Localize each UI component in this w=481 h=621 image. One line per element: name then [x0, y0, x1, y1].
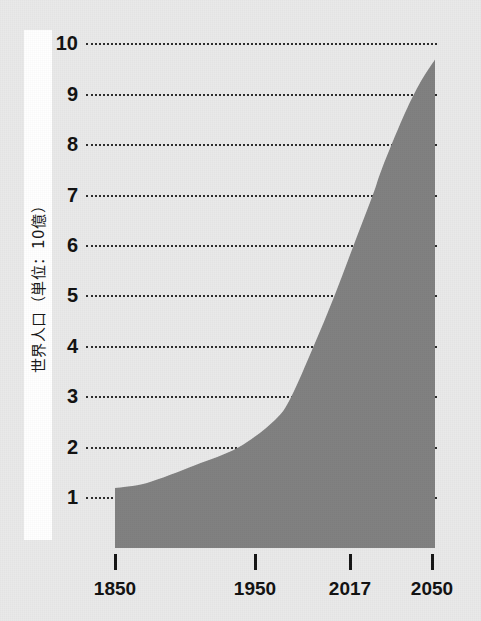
area-series-svg	[0, 0, 481, 621]
population-area-path	[115, 60, 435, 548]
x-tick-label-1950: 1950	[234, 578, 276, 600]
x-tick-label-2050: 2050	[411, 578, 453, 600]
x-tick-mark-2050	[431, 554, 434, 570]
x-tick-label-2017: 2017	[329, 578, 371, 600]
x-tick-mark-1950	[254, 554, 257, 570]
plot-area: 12345678910 1850195020172050	[0, 0, 481, 621]
x-tick-label-1850: 1850	[94, 578, 136, 600]
x-tick-mark-2017	[349, 554, 352, 570]
world-population-area-chart: 世界人口（単位：10億） 12345678910 185019502017205…	[0, 0, 481, 621]
x-tick-mark-1850	[114, 554, 117, 570]
